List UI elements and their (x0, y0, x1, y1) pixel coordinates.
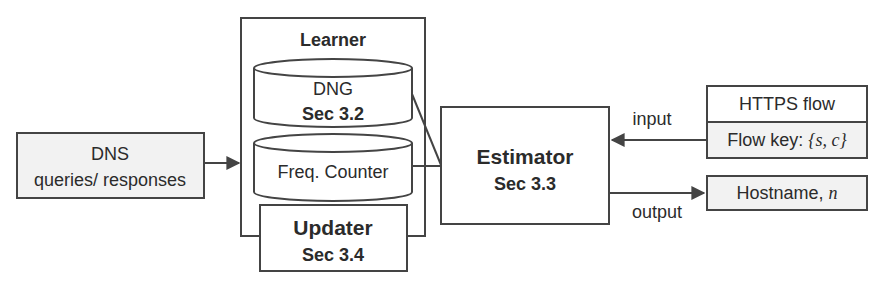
dng-cylinder: DNG Sec 3.2 (254, 59, 412, 127)
https-flow-title: HTTPS flow (739, 94, 836, 114)
flow-key-label: Flow key: {s, c} (727, 130, 847, 150)
learner-title: Learner (300, 30, 366, 50)
dng-section: Sec 3.2 (302, 104, 364, 124)
estimator-section: Sec 3.3 (494, 174, 556, 194)
dns-sublabel: queries/ responses (34, 170, 186, 190)
dng-label: DNG (313, 79, 353, 99)
hostname-box: Hostname, n (707, 176, 867, 210)
dng-to-estimator-line (412, 94, 441, 165)
dns-queries-box: DNS queries/ responses (17, 133, 204, 198)
updater-box: Updater Sec 3.4 (260, 205, 407, 271)
updater-section: Sec 3.4 (302, 245, 364, 265)
system-architecture-diagram: DNS queries/ responses Learner DNG Sec 3… (0, 0, 885, 286)
freq-counter-label: Freq. Counter (277, 162, 388, 182)
dns-label: DNS (91, 144, 129, 164)
estimator-label: Estimator (477, 145, 574, 168)
https-flow-box: HTTPS flow Flow key: {s, c} (707, 86, 867, 158)
estimator-box: Estimator Sec 3.3 (441, 107, 609, 224)
freq-counter-cylinder: Freq. Counter (254, 134, 412, 201)
output-label: output (632, 202, 682, 222)
updater-label: Updater (293, 216, 372, 239)
hostname-label: Hostname, n (736, 183, 837, 203)
input-label: input (632, 109, 671, 129)
